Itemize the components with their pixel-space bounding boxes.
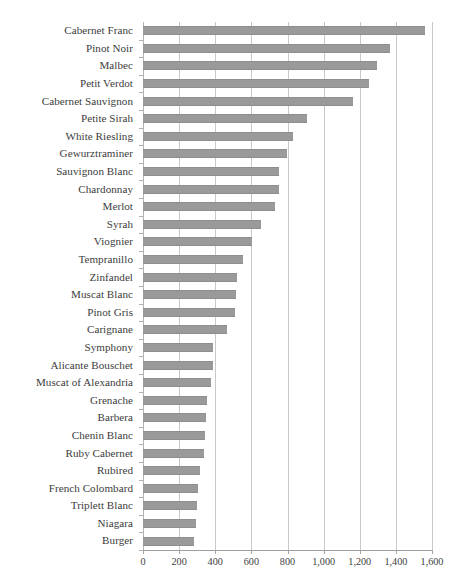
bar-row <box>143 22 432 40</box>
category-tick <box>139 427 143 428</box>
category-tick <box>139 515 143 516</box>
bar-row <box>143 515 432 533</box>
value-tick <box>143 550 144 554</box>
category-tick <box>139 92 143 93</box>
value-tick <box>251 550 252 554</box>
bar <box>143 237 252 246</box>
bar-chart: Cabernet FrancPinot NoirMalbecPetit Verd… <box>0 0 451 587</box>
value-tick-label: 1,600 <box>421 557 444 567</box>
bar-row <box>143 339 432 357</box>
value-tick <box>360 550 361 554</box>
category-label: Barbera <box>0 409 138 427</box>
bar <box>143 273 237 282</box>
category-tick <box>139 444 143 445</box>
bar <box>143 413 206 422</box>
category-tick <box>139 409 143 410</box>
bar-row <box>143 110 432 128</box>
bar <box>143 220 261 229</box>
bar-row <box>143 444 432 462</box>
category-label: Viognier <box>0 233 138 251</box>
bar-row <box>143 462 432 480</box>
value-tick <box>432 550 433 554</box>
bar-row <box>143 216 432 234</box>
bar-row <box>143 409 432 427</box>
bar-row <box>143 321 432 339</box>
gridline <box>432 22 433 550</box>
bar <box>143 97 353 106</box>
category-label: Triplett Blanc <box>0 497 138 515</box>
category-label: Sauvignon Blanc <box>0 163 138 181</box>
bar-row <box>143 180 432 198</box>
category-tick <box>139 110 143 111</box>
category-label: Muscat of Alexandria <box>0 374 138 392</box>
category-tick <box>139 268 143 269</box>
category-tick <box>139 128 143 129</box>
category-label: Merlot <box>0 198 138 216</box>
value-tick-label: 600 <box>244 557 259 567</box>
category-tick <box>139 57 143 58</box>
bar-row <box>143 128 432 146</box>
bar-row <box>143 92 432 110</box>
category-tick <box>139 321 143 322</box>
value-tick <box>324 550 325 554</box>
bar <box>143 308 235 317</box>
bar <box>143 361 213 370</box>
category-tick <box>139 374 143 375</box>
bar-row <box>143 532 432 550</box>
bar <box>143 255 243 264</box>
bar-row <box>143 145 432 163</box>
category-label: Pinot Gris <box>0 304 138 322</box>
category-tick <box>139 233 143 234</box>
bar <box>143 449 204 458</box>
bar <box>143 132 293 141</box>
category-label: Gewurztraminer <box>0 145 138 163</box>
bar-row <box>143 286 432 304</box>
bar <box>143 466 200 475</box>
value-tick-label: 1,200 <box>348 557 371 567</box>
bar-row <box>143 57 432 75</box>
category-label: Pinot Noir <box>0 40 138 58</box>
category-label: Grenache <box>0 391 138 409</box>
category-label: Tempranillo <box>0 251 138 269</box>
category-tick <box>139 180 143 181</box>
category-label: Cabernet Sauvignon <box>0 92 138 110</box>
value-tick-label: 400 <box>208 557 223 567</box>
category-label: Symphony <box>0 339 138 357</box>
category-label: White Riesling <box>0 128 138 146</box>
value-tick-label: 1,000 <box>312 557 335 567</box>
category-label: Alicante Bouschet <box>0 356 138 374</box>
bar-row <box>143 163 432 181</box>
bar-row <box>143 198 432 216</box>
category-label: Chardonnay <box>0 180 138 198</box>
bar <box>143 343 213 352</box>
bar-row <box>143 374 432 392</box>
bar-row <box>143 356 432 374</box>
category-tick <box>139 163 143 164</box>
bar-row <box>143 268 432 286</box>
category-tick <box>139 286 143 287</box>
value-tick-label: 1,400 <box>384 557 407 567</box>
category-label: Malbec <box>0 57 138 75</box>
bar-row <box>143 40 432 58</box>
category-tick <box>139 198 143 199</box>
category-tick <box>139 356 143 357</box>
category-label: Zinfandel <box>0 268 138 286</box>
category-tick <box>139 339 143 340</box>
category-tick <box>139 251 143 252</box>
value-tick-label: 800 <box>280 557 295 567</box>
bar <box>143 149 287 158</box>
bar <box>143 44 390 53</box>
bar <box>143 79 369 88</box>
category-tick <box>139 392 143 393</box>
bar <box>143 114 307 123</box>
category-label: Petit Verdot <box>0 75 138 93</box>
category-tick <box>139 216 143 217</box>
category-label: Muscat Blanc <box>0 286 138 304</box>
category-label: Carignane <box>0 321 138 339</box>
bar <box>143 396 207 405</box>
bar-series <box>143 22 432 550</box>
bar-row <box>143 427 432 445</box>
category-tick <box>139 462 143 463</box>
bar <box>143 290 236 299</box>
value-tick-label: 0 <box>140 557 145 567</box>
